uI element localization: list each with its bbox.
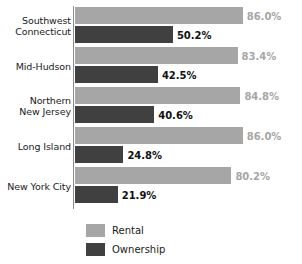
bar-group: Northern New Jersey 84.8% 40.6% xyxy=(0,86,302,126)
bar-rental[interactable] xyxy=(75,87,240,104)
category-label: Mid-Hudson xyxy=(16,61,71,72)
chart-legend: Rental Ownership xyxy=(86,222,236,260)
bar-row-rental: 83.4% xyxy=(75,47,238,64)
bar-rental[interactable] xyxy=(75,7,243,24)
bar-ownership[interactable] xyxy=(75,26,173,43)
bar-row-ownership: 40.6% xyxy=(75,106,154,123)
legend-label-rental: Rental xyxy=(112,225,144,236)
bar-row-rental: 84.8% xyxy=(75,87,240,104)
legend-swatch-ownership-icon xyxy=(86,243,105,256)
bar-row-rental: 80.2% xyxy=(75,167,231,184)
category-label: Southwest Connecticut xyxy=(15,15,71,37)
bar-ownership[interactable] xyxy=(75,106,154,123)
bar-row-ownership: 42.5% xyxy=(75,66,158,83)
category-label: Long Island xyxy=(18,141,71,152)
value-label-rental: 84.8% xyxy=(244,90,279,101)
bar-group: Southwest Connecticut 86.0% 50.2% xyxy=(0,6,302,46)
bar-group: New York City 80.2% 21.9% xyxy=(0,166,302,206)
bar-rental[interactable] xyxy=(75,47,238,64)
legend-swatch-rental-icon xyxy=(86,224,105,237)
bar-group: Long Island 86.0% 24.8% xyxy=(0,126,302,166)
bar-row-rental: 86.0% xyxy=(75,7,243,24)
bar-rental[interactable] xyxy=(75,127,243,144)
value-label-ownership: 42.5% xyxy=(162,69,197,80)
value-label-rental: 80.2% xyxy=(235,170,270,181)
value-label-rental: 86.0% xyxy=(247,130,282,141)
bar-group: Mid-Hudson 83.4% 42.5% xyxy=(0,46,302,86)
bar-row-ownership: 21.9% xyxy=(75,186,118,203)
bar-row-ownership: 50.2% xyxy=(75,26,173,43)
legend-item-ownership[interactable]: Ownership xyxy=(86,241,236,258)
horizontal-bar-chart: Southwest Connecticut 86.0% 50.2% Mid-Hu… xyxy=(0,0,302,264)
value-label-ownership: 24.8% xyxy=(127,149,162,160)
value-label-rental: 86.0% xyxy=(247,10,282,21)
bar-row-ownership: 24.8% xyxy=(75,146,123,163)
value-label-ownership: 40.6% xyxy=(158,109,193,120)
bar-row-rental: 86.0% xyxy=(75,127,243,144)
category-label: New York City xyxy=(7,181,71,192)
value-label-rental: 83.4% xyxy=(242,50,277,61)
category-label: Northern New Jersey xyxy=(19,95,71,117)
bar-ownership[interactable] xyxy=(75,186,118,203)
legend-item-rental[interactable]: Rental xyxy=(86,222,236,239)
value-label-ownership: 21.9% xyxy=(122,189,157,200)
bar-rental[interactable] xyxy=(75,167,231,184)
plot-area: Southwest Connecticut 86.0% 50.2% Mid-Hu… xyxy=(0,0,302,214)
value-label-ownership: 50.2% xyxy=(177,29,212,40)
legend-label-ownership: Ownership xyxy=(112,244,165,255)
bar-ownership[interactable] xyxy=(75,146,123,163)
bar-ownership[interactable] xyxy=(75,66,158,83)
